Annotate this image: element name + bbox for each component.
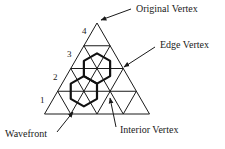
original-vertex-label: Original Vertex (136, 3, 198, 14)
wavefront-label: Wavefront (5, 128, 47, 139)
level-label: 4 (82, 26, 87, 36)
edge-vertex-label: Edge Vertex (160, 39, 209, 50)
original-vertex-arrow-icon (101, 9, 131, 20)
wavefront-arrow-icon (57, 112, 73, 132)
triangle-grid (45, 23, 150, 114)
wavefront-hexagons (71, 53, 110, 106)
level-label: 3 (67, 49, 72, 59)
edge-vertex-arrow-icon (124, 47, 155, 67)
interior-vertex-label: Interior Vertex (120, 124, 178, 135)
grid-line-diagonal (58, 91, 71, 114)
level-labels: 1234 (40, 26, 87, 105)
interior-vertex-arrow-icon (110, 98, 116, 127)
callouts: Original VertexEdge VertexWavefrontInter… (5, 3, 209, 139)
mesh-subdivision-diagram: 1234 Original VertexEdge VertexWavefront… (0, 0, 225, 149)
grid-line-diagonal (123, 91, 136, 114)
level-label: 1 (40, 95, 45, 105)
level-label: 2 (53, 72, 58, 82)
